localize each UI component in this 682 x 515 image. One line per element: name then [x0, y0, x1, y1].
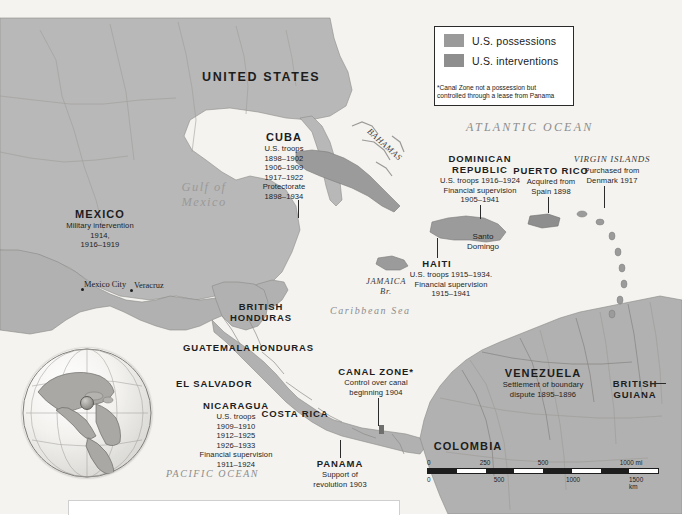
label-cuba: CUBA	[246, 131, 322, 143]
mexico-note-1: 1914,	[90, 231, 110, 240]
label-veracruz: Veracruz	[134, 281, 164, 290]
label-atlantic-ocean: ATLANTIC OCEAN	[466, 120, 593, 135]
label-jamaica: JAMAICA	[358, 276, 414, 286]
scale-mi-0: 0	[427, 459, 431, 466]
scale-labels-km: 0 500 1000 1500 km	[427, 476, 659, 485]
scale-km-1500: 1500 km	[629, 476, 649, 490]
cz-note-0: Control over canal	[344, 378, 407, 387]
gulf-line2: Mexico	[181, 195, 226, 209]
pan-note-0: Support of	[322, 470, 358, 479]
vi-note-0: Purchased from	[584, 166, 639, 175]
label-jamaica-sub: Br.	[358, 286, 414, 296]
label-united-states: UNITED STATES	[202, 70, 320, 84]
nica-note-3: 1926–1933	[217, 441, 256, 450]
santo-domingo-line2: Domingo	[467, 242, 499, 251]
leader-cuba	[298, 200, 299, 218]
label-panama-notes: Support of revolution 1903	[300, 470, 380, 489]
label-virgin-islands-notes: Purchased from Denmark 1917	[566, 166, 658, 185]
legend-swatch-interventions	[444, 54, 464, 67]
legend-row-interventions: U.S. interventions	[444, 54, 564, 67]
scale-mi-250: 250	[480, 459, 491, 466]
label-el-salvador: EL SALVADOR	[176, 378, 250, 389]
scale-seg-4	[514, 469, 543, 473]
cuba-note-1: 1898–1902	[265, 154, 304, 163]
leader-puerto-rico	[548, 197, 549, 213]
canal-zone-marker	[379, 425, 384, 434]
leader-haiti	[437, 238, 438, 258]
mexico-note-0: Military intervention	[66, 221, 134, 230]
label-gulf-of-mexico: Gulf of Mexico	[154, 180, 254, 210]
legend-footnote: *Canal Zone not a possession but control…	[437, 84, 557, 100]
dr-line2: REPUBLIC	[452, 164, 508, 175]
city-dot-veracruz	[130, 289, 133, 292]
scale-km-500: 500	[494, 476, 505, 483]
scale-seg-6	[572, 469, 601, 473]
label-mexico-city: Mexico City	[84, 280, 126, 289]
cz-note-1: beginning 1904	[349, 388, 402, 397]
haiti-note-0: U.S. troops 1915–1934.	[410, 270, 492, 279]
legend-row-possessions: U.S. possessions	[444, 34, 564, 47]
ven-note-1: dispute 1895–1896	[510, 390, 576, 399]
label-mexico: MEXICO	[60, 208, 140, 220]
cuba-note-0: U.S. troops	[264, 144, 303, 153]
leader-dominican-republic	[480, 205, 481, 219]
label-virgin-islands: VIRGIN ISLANDS	[566, 154, 658, 164]
label-venezuela: VENEZUELA	[488, 367, 598, 379]
scale-seg-1	[428, 469, 457, 473]
scale-seg-5	[543, 469, 572, 473]
bh-line2: HONDURAS	[230, 312, 292, 323]
mexico-note-2: 1916–1919	[81, 240, 120, 249]
legend-label-interventions: U.S. interventions	[472, 55, 558, 67]
legend-swatch-possessions	[444, 34, 464, 47]
label-cuba-notes: U.S. troops 1898–1902 1906–1909 1917–192…	[244, 144, 324, 202]
bh-line1: BRITISH	[239, 301, 283, 312]
label-costa-rica: COSTA RICA	[258, 408, 332, 419]
label-caribbean-sea: Caribbean Sea	[330, 305, 411, 316]
inset-globe	[22, 348, 152, 478]
legend-label-possessions: U.S. possessions	[472, 35, 556, 47]
vi-note-1: Denmark 1917	[586, 176, 637, 185]
cuba-note-3: 1917–1922	[265, 173, 304, 182]
label-canal-zone: CANAL ZONE*	[334, 366, 418, 377]
label-canal-zone-notes: Control over canal beginning 1904	[330, 378, 422, 397]
scale-seg-2	[457, 469, 486, 473]
globe-location-pin	[80, 396, 94, 410]
label-guatemala: GUATEMALA	[182, 342, 252, 353]
label-panama: PANAMA	[306, 458, 374, 469]
map-scale-bar: 0 250 500 1000 mi 0 500 1000 1500 km	[427, 459, 659, 485]
label-venezuela-notes: Settlement of boundary dispute 1895–1896	[484, 380, 602, 399]
nica-note-5: 1911–1924	[217, 460, 255, 469]
label-british-honduras: BRITISH HONDURAS	[228, 301, 294, 323]
cuba-note-4: Protectorate	[263, 182, 306, 191]
leader-canal-zone	[378, 398, 379, 426]
pr-note-1: Spain 1898	[531, 187, 570, 196]
nica-note-2: 1912–1925	[217, 431, 256, 440]
label-mexico-notes: Military intervention 1914, 1916–1919	[50, 221, 150, 250]
scale-seg-3	[486, 469, 515, 473]
leader-british-guiana	[650, 383, 666, 384]
ven-note-0: Settlement of boundary	[503, 380, 584, 389]
haiti-note-2: 1915–1941	[432, 289, 471, 298]
haiti-note-1: Financial supervision	[414, 280, 487, 289]
label-colombia: COLOMBIA	[420, 440, 516, 452]
dr-note-2: 1905–1941	[461, 195, 500, 204]
dr-note-0: U.S. troops 1916–1924	[440, 176, 520, 185]
label-honduras: HONDURAS	[250, 342, 316, 353]
pan-note-1: revolution 1903	[313, 480, 366, 489]
label-santo-domingo: Santo Domingo	[460, 232, 506, 252]
cuba-note-2: 1906–1909	[265, 163, 304, 172]
scale-km-1000: 1000	[566, 476, 580, 483]
label-nicaragua-notes: U.S. troops 1909–1910 1912–1925 1926–193…	[190, 412, 282, 470]
scale-km-0: 0	[427, 476, 431, 483]
leader-panama	[340, 440, 341, 458]
scale-mi-1000: 1000 mi	[620, 459, 643, 466]
scale-seg-8	[629, 469, 658, 473]
bottom-caption-strip	[68, 500, 400, 515]
scale-bar-graphic	[427, 468, 659, 474]
scale-mi-500: 500	[538, 459, 549, 466]
gulf-line1: Gulf of	[182, 180, 227, 194]
leader-virgin-islands	[604, 186, 605, 208]
bg-line2: GUIANA	[614, 389, 657, 400]
scale-seg-7	[601, 469, 630, 473]
